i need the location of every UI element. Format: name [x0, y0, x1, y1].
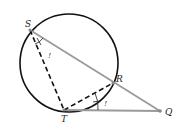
label-S: S — [25, 19, 31, 29]
circle — [20, 14, 118, 112]
angle-mark-S: ! — [48, 51, 51, 60]
tangent-TQ — [64, 110, 160, 111]
point-Q — [158, 109, 162, 113]
geometry-diagram: S R T Q ! ! — [0, 0, 177, 131]
diagram-svg: S R T Q ! ! — [0, 0, 177, 131]
angle-mark-T: ! — [104, 99, 107, 108]
point-R — [111, 81, 114, 84]
label-T: T — [61, 114, 68, 124]
label-Q: Q — [165, 107, 173, 117]
point-T — [62, 108, 65, 111]
secant-SQ — [30, 30, 160, 111]
label-R: R — [115, 74, 123, 84]
